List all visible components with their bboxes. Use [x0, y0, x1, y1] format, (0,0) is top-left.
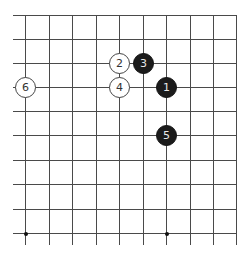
- move-number: 6: [22, 82, 29, 93]
- grid-line-horizontal: [13, 184, 237, 185]
- black-stone-move-3[interactable]: 3: [133, 53, 154, 74]
- go-board[interactable]: 123456: [0, 0, 250, 255]
- star-point: [24, 232, 28, 236]
- grid-line-horizontal: [13, 209, 237, 210]
- black-stone-move-1[interactable]: 1: [156, 77, 177, 98]
- grid-line-vertical: [213, 15, 214, 245]
- white-stone-move-4[interactable]: 4: [109, 77, 130, 98]
- grid-line-horizontal: [13, 160, 237, 161]
- grid-line-vertical: [96, 15, 97, 245]
- grid-line-horizontal: [13, 135, 237, 136]
- grid-line-vertical: [236, 15, 237, 245]
- grid-line-vertical: [49, 15, 50, 245]
- grid-line-horizontal: [13, 15, 237, 16]
- grid-line-vertical: [143, 15, 144, 245]
- move-number: 4: [116, 82, 123, 93]
- white-stone-move-2[interactable]: 2: [109, 53, 130, 74]
- move-number: 2: [116, 58, 123, 69]
- grid-line-vertical: [25, 15, 26, 245]
- grid-line-horizontal: [13, 111, 237, 112]
- grid-line-vertical: [190, 15, 191, 245]
- grid-line-vertical: [72, 15, 73, 245]
- move-number: 1: [163, 82, 170, 93]
- black-stone-move-5[interactable]: 5: [156, 125, 177, 146]
- grid-line-horizontal: [13, 39, 237, 40]
- grid-line-vertical: [119, 15, 120, 245]
- grid-line-horizontal: [13, 233, 237, 234]
- move-number: 5: [163, 130, 170, 141]
- white-stone-move-6[interactable]: 6: [15, 77, 36, 98]
- star-point: [165, 232, 169, 236]
- move-number: 3: [140, 58, 147, 69]
